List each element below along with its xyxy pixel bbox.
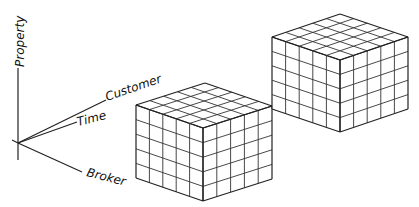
- cube-back: [272, 14, 408, 132]
- time-axis: [18, 122, 77, 143]
- cubes-group: [136, 14, 408, 201]
- property-label: Property: [13, 15, 27, 67]
- broker-label: Broker: [85, 165, 128, 188]
- axis-stub: [12, 140, 18, 143]
- time-label: Time: [75, 108, 107, 129]
- broker-axis: [18, 143, 82, 172]
- diagram-svg: Property Customer Time Broker: [0, 0, 419, 207]
- cube-front: [136, 83, 272, 201]
- diagram-canvas: Property Customer Time Broker: [0, 0, 419, 207]
